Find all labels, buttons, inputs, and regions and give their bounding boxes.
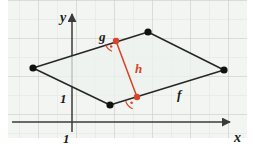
height-foot-lower [134, 94, 140, 100]
figure-canvas: g h f y x 1 1 [0, 0, 255, 153]
label-h: h [135, 61, 142, 76]
height-foot-upper [113, 38, 119, 44]
vertex-right [220, 66, 227, 73]
right-angle-lower-dot [130, 102, 133, 105]
label-y-axis: y [58, 10, 67, 25]
vertex-left [29, 64, 36, 71]
label-unit-y: 1 [60, 91, 67, 106]
geometry-figure: g h f y x 1 1 [0, 0, 255, 153]
label-g: g [98, 29, 106, 44]
vertex-top [144, 28, 151, 35]
label-unit-x: 1 [63, 131, 70, 146]
vertex-bottom [106, 101, 113, 108]
right-angle-upper-dot [110, 45, 113, 48]
label-x-axis: x [233, 130, 241, 145]
